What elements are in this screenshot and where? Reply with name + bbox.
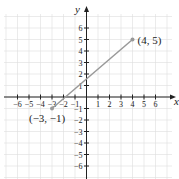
y-tick-label: −6	[74, 162, 83, 171]
x-tick-label: −5	[25, 100, 34, 109]
axes: xy	[4, 3, 179, 179]
x-axis-label: x	[173, 95, 179, 107]
endpoint-marker	[50, 107, 54, 111]
y-axis-label: y	[74, 3, 80, 15]
y-axis-arrow-icon	[84, 6, 89, 12]
x-tick-label: 3	[119, 100, 123, 109]
y-tick-label: 5	[79, 36, 83, 45]
point-label-4-5: (4, 5)	[138, 34, 162, 47]
y-tick-label: −3	[74, 128, 83, 137]
y-tick-label: −2	[74, 116, 83, 125]
x-tick-label: −6	[13, 100, 22, 109]
endpoint-marker	[131, 38, 135, 42]
y-tick-label: 2	[79, 70, 83, 79]
x-tick-label: 5	[142, 100, 146, 109]
x-tick-label: 6	[154, 100, 158, 109]
x-tick-label: 1	[96, 100, 100, 109]
x-tick-label: 4	[131, 100, 135, 109]
coordinate-plane: xy −6−5−4−3−2−1123456−6−5−4−3−2−1123456 …	[0, 0, 179, 179]
y-tick-label: 4	[79, 47, 83, 56]
y-tick-label: 3	[79, 59, 83, 68]
x-tick-label: 2	[108, 100, 112, 109]
y-tick-label: −5	[74, 151, 83, 160]
x-tick-label: −4	[36, 100, 45, 109]
y-tick-label: −4	[74, 139, 83, 148]
y-tick-label: 6	[79, 24, 83, 33]
annotations: (4, 5)(−3, −1)	[29, 34, 162, 126]
y-tick-label: −1	[74, 105, 83, 114]
point-label-neg3-neg1: (−3, −1)	[29, 112, 66, 125]
